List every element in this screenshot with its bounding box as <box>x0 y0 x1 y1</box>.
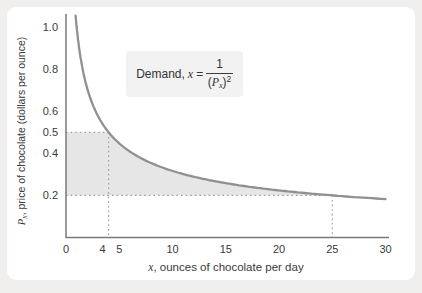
x-axis-title-text: , ounces of chocolate per day <box>153 261 303 273</box>
y-tick-label: 0.5 <box>28 126 58 139</box>
formula-equals: = <box>196 67 203 81</box>
y-axis-title: Px, price of chocolate (dollars per ounc… <box>15 37 29 226</box>
formula-var: x <box>188 67 193 82</box>
y-axis-var: P <box>16 219 27 225</box>
shaded-area <box>66 132 332 195</box>
x-tick-label: 15 <box>215 243 237 256</box>
y-axis-title-text: , price of chocolate (dollars per ounce) <box>15 37 27 216</box>
formula-fraction: 1 (Px)2 <box>206 58 233 90</box>
y-tick-label: 0.8 <box>28 63 58 76</box>
demand-curve-figure: Px, price of chocolate (dollars per ounc… <box>0 0 422 293</box>
x-tick-label: 10 <box>162 243 184 256</box>
x-tick-label: 0 <box>55 243 77 256</box>
y-tick-label: 0.2 <box>28 189 58 202</box>
formula-exponent: 2 <box>227 74 232 84</box>
x-tick-label: 25 <box>321 243 343 256</box>
y-tick-label: 0.6 <box>28 105 58 118</box>
axes-lines <box>66 14 389 238</box>
formula-den-var: P <box>212 75 219 89</box>
y-tick-label: 1.0 <box>28 21 58 34</box>
x-tick-label: 5 <box>108 243 130 256</box>
formula-numerator: 1 <box>206 58 233 74</box>
x-tick-label: 20 <box>268 243 290 256</box>
formula-denominator: (Px)2 <box>208 74 232 90</box>
y-tick-label: 0.4 <box>28 147 58 160</box>
y-axis-var-subscript: x <box>20 215 29 219</box>
formula-prefix: Demand, <box>136 67 185 81</box>
x-tick-label: 30 <box>375 243 397 256</box>
x-axis-title: x, ounces of chocolate per day <box>66 261 386 273</box>
demand-formula-annotation: Demand, x = 1 (Px)2 <box>126 51 243 97</box>
